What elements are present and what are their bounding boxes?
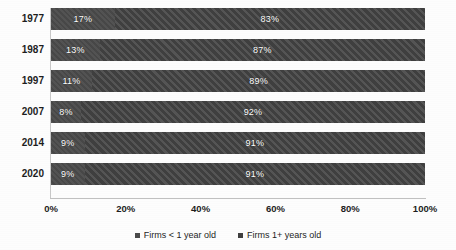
bar-row: 8% 92% — [51, 101, 425, 123]
x-tick-100: 100% — [400, 203, 450, 214]
x-tick-0: 0% — [26, 203, 76, 214]
legend-label: Firms 1+ years old — [247, 230, 321, 240]
bar-segment-value: 91% — [246, 169, 265, 179]
bar-segment-firms-under-1yr[interactable]: 13% — [51, 39, 100, 61]
bar-segment-firms-1plus-yrs[interactable]: 89% — [92, 70, 425, 92]
bar-stack: 9% 91% — [51, 163, 425, 185]
bar-segment-value: 8% — [59, 107, 72, 117]
bar-segment-value: 17% — [73, 14, 92, 24]
x-tick-60: 60% — [250, 203, 300, 214]
bar-segment-firms-under-1yr[interactable]: 17% — [51, 8, 115, 30]
legend-item-firms-under-1yr[interactable]: Firms < 1 year old — [135, 230, 216, 240]
bar-segment-value: 87% — [253, 45, 272, 55]
x-tick-80: 80% — [325, 203, 375, 214]
legend-swatch-icon — [238, 233, 243, 238]
bar-segment-firms-under-1yr[interactable]: 9% — [51, 132, 85, 154]
category-label-2020: 2020 — [0, 163, 44, 185]
stacked-bar-chart: 1977 1987 1997 2007 2014 2020 17% 83% 13… — [0, 0, 456, 250]
category-label-1997: 1997 — [0, 70, 44, 92]
bar-segment-firms-1plus-yrs[interactable]: 91% — [85, 163, 425, 185]
bar-segment-firms-under-1yr[interactable]: 9% — [51, 163, 85, 185]
bar-segment-value: 89% — [249, 76, 268, 86]
x-tick-40: 40% — [176, 203, 226, 214]
bar-segment-value: 13% — [66, 45, 85, 55]
bar-segment-firms-under-1yr[interactable]: 8% — [51, 101, 81, 123]
plot-area: 17% 83% 13% 87% 11% — [51, 8, 425, 198]
x-axis-line — [50, 198, 426, 199]
bar-row: 17% 83% — [51, 8, 425, 30]
bar-segment-value: 9% — [61, 138, 74, 148]
bar-row: 11% 89% — [51, 70, 425, 92]
bar-segment-value: 11% — [63, 76, 81, 86]
bar-segment-firms-1plus-yrs[interactable]: 92% — [81, 101, 425, 123]
bar-stack: 17% 83% — [51, 8, 425, 30]
bar-stack: 9% 91% — [51, 132, 425, 154]
bar-segment-firms-1plus-yrs[interactable]: 91% — [85, 132, 425, 154]
bar-segment-value: 83% — [260, 14, 279, 24]
bar-row: 9% 91% — [51, 163, 425, 185]
category-label-2014: 2014 — [0, 132, 44, 154]
bar-stack: 13% 87% — [51, 39, 425, 61]
chart-legend: Firms < 1 year old Firms 1+ years old — [0, 230, 456, 240]
bar-row: 13% 87% — [51, 39, 425, 61]
category-label-1987: 1987 — [0, 39, 44, 61]
bar-segment-value: 91% — [246, 138, 265, 148]
legend-swatch-icon — [135, 233, 140, 238]
bar-segment-value: 92% — [244, 107, 263, 117]
bar-segment-firms-1plus-yrs[interactable]: 83% — [115, 8, 425, 30]
bar-stack: 8% 92% — [51, 101, 425, 123]
legend-item-firms-1plus-yrs[interactable]: Firms 1+ years old — [238, 230, 321, 240]
bar-stack: 11% 89% — [51, 70, 425, 92]
bar-segment-firms-under-1yr[interactable]: 11% — [51, 70, 92, 92]
legend-label: Firms < 1 year old — [144, 230, 216, 240]
category-label-1977: 1977 — [0, 8, 44, 30]
x-tick-20: 20% — [101, 203, 151, 214]
bar-segment-firms-1plus-yrs[interactable]: 87% — [100, 39, 425, 61]
category-label-2007: 2007 — [0, 101, 44, 123]
bar-segment-value: 9% — [61, 169, 74, 179]
bar-row: 9% 91% — [51, 132, 425, 154]
